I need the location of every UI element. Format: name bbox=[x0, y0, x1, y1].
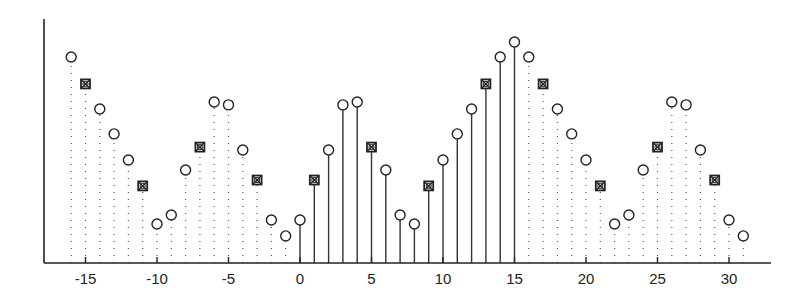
markers bbox=[66, 37, 748, 241]
circle-marker bbox=[281, 231, 291, 241]
circle-marker bbox=[667, 97, 677, 107]
circle-marker bbox=[409, 219, 419, 229]
circle-marker bbox=[123, 155, 133, 165]
circle-marker bbox=[438, 155, 448, 165]
circle-marker bbox=[381, 165, 391, 175]
circle-marker bbox=[610, 219, 620, 229]
circle-marker bbox=[338, 100, 348, 110]
x-tick-label: 20 bbox=[578, 270, 595, 287]
circle-marker bbox=[66, 52, 76, 62]
circle-marker bbox=[510, 37, 520, 47]
x-tick-labels: -15-10-5051015202530 bbox=[75, 270, 738, 287]
boxed-x-marker bbox=[653, 143, 662, 152]
circle-marker bbox=[624, 210, 634, 220]
circle-marker bbox=[395, 210, 405, 220]
circle-marker bbox=[152, 219, 162, 229]
x-tick-label: 15 bbox=[506, 270, 523, 287]
circle-marker bbox=[738, 231, 748, 241]
boxed-x-marker bbox=[424, 181, 433, 190]
circle-marker bbox=[695, 145, 705, 155]
boxed-x-marker bbox=[138, 181, 147, 190]
x-tick-label: 0 bbox=[296, 270, 304, 287]
circle-marker bbox=[452, 129, 462, 139]
circle-marker bbox=[567, 129, 577, 139]
boxed-x-marker bbox=[710, 176, 719, 185]
circle-marker bbox=[295, 215, 305, 225]
x-tick-label: 25 bbox=[649, 270, 666, 287]
x-ticks bbox=[86, 257, 730, 263]
stems bbox=[71, 47, 743, 263]
x-tick-label: 10 bbox=[435, 270, 452, 287]
boxed-x-marker bbox=[539, 79, 548, 88]
circle-marker bbox=[238, 145, 248, 155]
circle-marker bbox=[109, 129, 119, 139]
boxed-x-marker bbox=[367, 143, 376, 152]
circle-marker bbox=[467, 104, 477, 114]
circle-marker bbox=[581, 155, 591, 165]
circle-marker bbox=[352, 97, 362, 107]
boxed-x-marker bbox=[481, 79, 490, 88]
circle-marker bbox=[724, 215, 734, 225]
circle-marker bbox=[166, 210, 176, 220]
stem-plot: -15-10-5051015202530 bbox=[0, 0, 809, 305]
x-tick-label: 5 bbox=[367, 270, 375, 287]
circle-marker bbox=[209, 97, 219, 107]
x-tick-label: -5 bbox=[222, 270, 235, 287]
circle-marker bbox=[266, 215, 276, 225]
circle-marker bbox=[495, 52, 505, 62]
x-tick-label: 30 bbox=[721, 270, 738, 287]
circle-marker bbox=[552, 104, 562, 114]
circle-marker bbox=[524, 52, 534, 62]
circle-marker bbox=[181, 165, 191, 175]
boxed-x-marker bbox=[310, 176, 319, 185]
boxed-x-marker bbox=[81, 79, 90, 88]
circle-marker bbox=[224, 100, 234, 110]
boxed-x-marker bbox=[253, 176, 262, 185]
x-tick-label: -10 bbox=[146, 270, 168, 287]
boxed-x-marker bbox=[195, 143, 204, 152]
circle-marker bbox=[95, 104, 105, 114]
boxed-x-marker bbox=[596, 181, 605, 190]
circle-marker bbox=[638, 165, 648, 175]
circle-marker bbox=[324, 145, 334, 155]
x-tick-label: -15 bbox=[75, 270, 97, 287]
circle-marker bbox=[681, 100, 691, 110]
